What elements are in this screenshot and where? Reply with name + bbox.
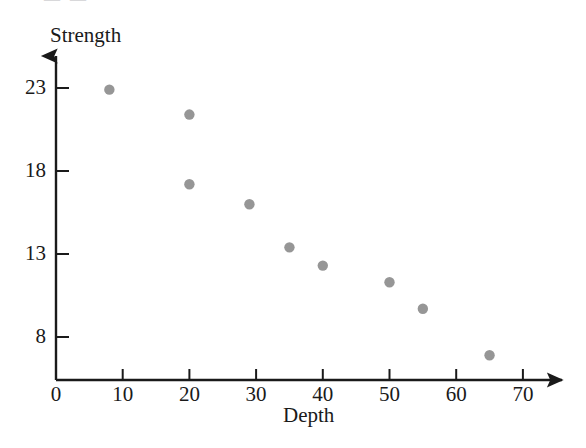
- x-tick-label-30: 30: [226, 384, 286, 405]
- y-tick-label-23: 23: [0, 77, 46, 98]
- x-tick-label-20: 20: [159, 384, 219, 405]
- x-axis-title: Depth: [283, 405, 334, 426]
- x-tick-label-0: 0: [26, 384, 86, 405]
- x-tick-label-70: 70: [493, 384, 553, 405]
- x-tick-label-40: 40: [293, 384, 353, 405]
- data-point: [484, 350, 494, 360]
- y-axis-title: Strength: [50, 25, 121, 46]
- axes-group: [56, 56, 562, 380]
- y-tick-label-13: 13: [0, 243, 46, 264]
- data-point: [318, 260, 328, 270]
- data-point: [384, 277, 394, 287]
- data-point: [184, 109, 194, 119]
- scatter-plot-figure: — — 0102030405060708131823 Strength Dept…: [0, 0, 586, 448]
- x-tick-label-60: 60: [426, 384, 486, 405]
- data-point: [418, 304, 428, 314]
- x-tick-label-10: 10: [93, 384, 153, 405]
- x-tick-label-50: 50: [360, 384, 420, 405]
- data-point: [104, 84, 114, 94]
- data-point: [184, 179, 194, 189]
- data-points-group: [104, 84, 495, 360]
- data-point: [284, 242, 294, 252]
- y-tick-label-8: 8: [0, 326, 46, 347]
- plot-canvas: [0, 0, 586, 448]
- tick-marks-group: [56, 88, 523, 380]
- data-point: [244, 199, 254, 209]
- y-tick-label-18: 18: [0, 160, 46, 181]
